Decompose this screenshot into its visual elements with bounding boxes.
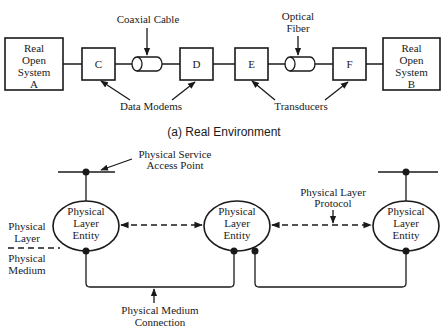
medium-label-2: Medium (8, 264, 46, 276)
medium-label-1: Physical (8, 252, 45, 264)
entity-label-1: Physical (67, 205, 104, 217)
real-environment-section: Real Open System A C D E (5, 10, 440, 139)
system-b-label-4: B (408, 78, 415, 90)
modem-d: D (180, 48, 213, 80)
transducer-e-arrow-icon (252, 81, 275, 100)
modem-c: C (82, 48, 115, 80)
coaxial-cable-label: Coaxial Cable (117, 13, 180, 25)
optical-label-1: Optical (282, 10, 314, 22)
entity-label-1: Physical (387, 205, 424, 217)
entity-label-3: Entity (73, 229, 100, 241)
system-b-label-3: System (395, 66, 428, 78)
connection-label-2: Connection (135, 316, 186, 328)
transducer-e: E (235, 48, 268, 80)
entity-label-1: Physical (218, 205, 255, 217)
sap-label-2: Access Point (146, 159, 203, 171)
sap-arrow-icon (101, 159, 132, 170)
transducer-f-arrow-icon (325, 82, 348, 100)
optical-fiber-icon (285, 57, 315, 71)
transducer-f-label: F (346, 58, 352, 70)
system-a-label-2: Open (22, 54, 46, 66)
modem-d-label: D (193, 58, 201, 70)
entity-label-2: Layer (73, 217, 99, 229)
modem-c-label: C (95, 58, 102, 70)
sap-left (58, 169, 115, 202)
optical-label-2: Fiber (286, 22, 310, 34)
physical-layer-entity-center: Physical Layer Entity (204, 201, 270, 251)
entity-label-3: Entity (224, 229, 251, 241)
real-open-system-a: Real Open System A (5, 38, 63, 90)
layer-label-1: Physical (8, 220, 45, 232)
system-b-label-1: Real (401, 42, 421, 54)
transducer-e-label: E (248, 58, 255, 70)
medium-connection-right (255, 251, 406, 287)
data-modems-label: Data Modems (120, 100, 182, 112)
entity-label-2: Layer (224, 217, 250, 229)
entity-label-2: Layer (393, 217, 419, 229)
transducer-f: F (333, 48, 366, 80)
medium-connection-left (86, 251, 234, 287)
layer-label-2: Layer (14, 232, 40, 244)
system-a-label-3: System (18, 66, 51, 78)
modem-d-arrow-icon (172, 82, 195, 100)
entity-label-3: Entity (393, 229, 420, 241)
physical-layer-model-section: Physical Service Access Point Physical L… (8, 148, 439, 328)
coaxial-cable-icon (132, 57, 162, 71)
system-a-label-4: A (30, 78, 38, 90)
system-b-label-2: Open (400, 54, 424, 66)
modem-c-arrow-icon (101, 81, 130, 100)
physical-layer-entity-left: Physical Layer Entity (53, 201, 119, 251)
real-environment-caption: (a) Real Environment (167, 125, 281, 139)
protocol-label-2: Protocol (314, 197, 351, 209)
connection-label-1: Physical Medium (121, 304, 199, 316)
system-a-label-1: Real (24, 42, 44, 54)
sap-right (378, 169, 438, 202)
real-open-system-b: Real Open System B (383, 38, 440, 90)
transducers-label: Transducers (274, 100, 327, 112)
osi-physical-layer-diagram: Real Open System A C D E (0, 0, 445, 333)
physical-layer-entity-right: Physical Layer Entity (373, 201, 439, 251)
